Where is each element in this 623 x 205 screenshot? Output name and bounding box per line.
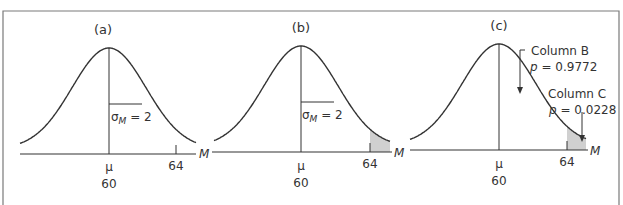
normal-distribution-figure: (a) σM = 2 M μ 60 64 (b) σM = 2 M μ 60 6… [0,0,623,205]
column-b-arrow-line [520,50,525,88]
panel-b: (b) σM = 2 M μ 60 64 [212,20,405,190]
panel-b-label: (b) [292,20,310,35]
column-b-p: p = 0.9772 [529,60,597,74]
panel-a-axis-label: M [199,147,210,161]
column-c-title: Column C [548,87,606,101]
panel-a-mean-value: 60 [101,177,116,191]
panel-c: (c) Column B p = 0.9772 Column C p = 0.0… [410,18,616,188]
panel-a-curve [20,48,196,143]
column-b-title: Column B [531,44,589,58]
panel-b-64-label: 64 [362,157,377,171]
panel-a-sigma-label: σM = 2 [111,110,152,126]
column-b-arrowhead-icon [517,87,523,94]
panel-b-sigma-label: σM = 2 [302,108,343,124]
panel-c-axis-label: M [590,144,601,158]
panel-c-mean-value: 60 [491,174,506,188]
panel-c-mu: μ [495,157,503,171]
panel-c-64-label: 64 [559,155,574,169]
panel-b-mu: μ [297,159,305,173]
panel-a: (a) σM = 2 M μ 60 64 [20,22,210,191]
panel-c-label: (c) [490,18,507,33]
figure-frame [3,11,619,205]
panel-b-axis-label: M [394,146,405,160]
panel-b-curve [214,46,390,141]
figure-canvas: (a) σM = 2 M μ 60 64 (b) σM = 2 M μ 60 6… [0,0,623,205]
panel-a-mu: μ [105,160,113,174]
panel-a-64-label: 64 [168,159,183,173]
panel-b-mean-value: 60 [293,176,308,190]
column-c-p: p = 0.0228 [548,103,616,117]
panel-a-label: (a) [94,22,112,37]
